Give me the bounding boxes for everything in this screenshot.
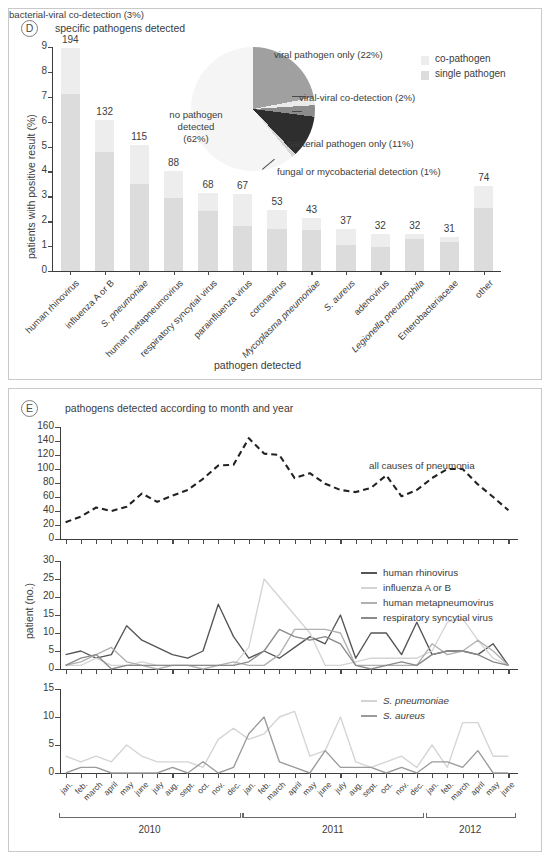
bar-segment-single-pathogen <box>233 226 252 271</box>
panel-d-y-tick-label: 3 <box>25 189 47 200</box>
year-label: 2010 <box>120 824 180 835</box>
bar-count-label: 43 <box>291 204 331 215</box>
panel-d-x-tick <box>139 271 140 275</box>
panel-d-y-tick-label: 1 <box>25 239 47 250</box>
figure-root: D specific pathogens detected patients w… <box>0 0 550 860</box>
panel-d-x-tick <box>243 271 244 275</box>
panel-d-y-tick-label: 6 <box>25 115 47 126</box>
panel-d-y-tick-label: 7 <box>25 90 47 101</box>
pie-callout-bacterial-viral: bacterial-viral co-detection (3%) <box>9 9 144 20</box>
series-legend-label: S. aureus <box>383 710 425 721</box>
leader-line-bacterial-viral <box>292 111 302 112</box>
bar-segment-single-pathogen <box>198 211 217 271</box>
series-legend-swatch <box>361 700 377 702</box>
legend-label-single-pathogen: single pathogen <box>435 68 506 79</box>
year-bracket-line <box>59 817 240 818</box>
panel-d-x-tick <box>346 271 347 275</box>
bar-segment-co-pathogen <box>61 48 80 94</box>
bar-segment-co-pathogen <box>130 145 149 184</box>
panel-d-y-tick-label: 9 <box>25 40 47 51</box>
panel-d-y-tick-label: 5 <box>25 140 47 151</box>
bar-segment-single-pathogen <box>95 152 114 271</box>
bar-segment-single-pathogen <box>302 230 321 271</box>
panel-d-y-tick-label: 2 <box>25 214 47 225</box>
panel-d-badge: D <box>21 20 38 37</box>
panel-d-y-tick-label: 4 <box>25 164 47 175</box>
panel-d-y-tick-label: 8 <box>25 65 47 76</box>
year-bracket-cap <box>242 813 243 818</box>
panel-d-caption: specific pathogens detected <box>55 22 185 34</box>
panel-d-x-tick <box>174 271 175 275</box>
bar-segment-single-pathogen <box>336 245 355 271</box>
panel-d-x-tick <box>484 271 485 275</box>
year-bracket-cap <box>423 813 424 818</box>
panel-d-x-tick <box>277 271 278 275</box>
bar-segment-co-pathogen <box>198 193 217 211</box>
panel-d-y-tick-label: 0 <box>25 264 47 275</box>
bar-count-label: 31 <box>429 223 469 234</box>
bar-segment-co-pathogen <box>267 210 286 229</box>
bar-segment-co-pathogen <box>336 229 355 246</box>
panel-d: D specific pathogens detected patients w… <box>8 8 542 380</box>
panel-d-x-tick <box>70 271 71 275</box>
bar-count-label: 132 <box>85 106 125 117</box>
panel-d-x-tick <box>208 271 209 275</box>
panel-d-x-tick <box>105 271 106 275</box>
bar-segment-co-pathogen <box>233 194 252 226</box>
pie-callout-viral-only: viral pathogen only (22%) <box>274 49 383 60</box>
series-line <box>66 717 509 773</box>
bar-segment-single-pathogen <box>267 229 286 271</box>
year-label: 2011 <box>303 824 363 835</box>
bar-segment-co-pathogen <box>405 234 424 239</box>
panel-d-x-tick <box>415 271 416 275</box>
panel-d-y-axis <box>52 47 53 272</box>
leader-line-viral-viral <box>292 96 306 97</box>
pie-callout-bacterial-only: bacterial pathogen only (11%) <box>287 138 414 149</box>
legend-label-co-pathogen: co-pathogen <box>435 53 491 64</box>
panel-d-x-axis-title: pathogen detected <box>214 359 301 371</box>
bar-segment-co-pathogen <box>164 171 183 198</box>
bar-segment-single-pathogen <box>130 184 149 271</box>
panel-d-x-tick <box>311 271 312 275</box>
bar-segment-single-pathogen <box>405 239 424 271</box>
bar-segment-co-pathogen <box>302 218 321 230</box>
bar-count-label: 74 <box>464 172 504 183</box>
panel-e: E pathogens detected according to month … <box>8 388 542 852</box>
bar-segment-single-pathogen <box>164 198 183 271</box>
pie-center-label: no pathogen detected (62%) <box>159 109 233 145</box>
legend-swatch-single-pathogen <box>421 71 429 80</box>
bar-segment-co-pathogen <box>474 186 493 208</box>
bar-segment-co-pathogen <box>440 237 459 241</box>
year-bracket-cap <box>426 813 427 818</box>
bar-segment-co-pathogen <box>371 234 390 247</box>
year-bracket-line <box>242 817 423 818</box>
panel-d-y-axis-title: patients with positive result (%) <box>25 114 37 259</box>
year-bracket-cap <box>240 813 241 818</box>
bar-count-label: 194 <box>50 34 90 45</box>
pie-center-line-3: (62%) <box>159 133 233 145</box>
bar-count-label: 67 <box>223 180 263 191</box>
year-bracket-cap <box>515 813 516 818</box>
bar-segment-single-pathogen <box>371 247 390 271</box>
bar-segment-single-pathogen <box>474 208 493 271</box>
series-line <box>66 711 509 767</box>
year-bracket-line <box>426 817 515 818</box>
year-bracket-cap <box>59 813 60 818</box>
bar-count-label: 88 <box>154 157 194 168</box>
pie-callout-fungal: fungal or mycobacterial detection (1%) <box>277 166 441 177</box>
pie-center-line-2: detected <box>159 121 233 133</box>
panel-d-x-tick <box>380 271 381 275</box>
bar-segment-single-pathogen <box>440 242 459 271</box>
bar-segment-single-pathogen <box>61 94 80 271</box>
series-legend-label: S. pneumoniae <box>383 695 449 706</box>
bar-count-label: 115 <box>119 131 159 142</box>
year-label: 2012 <box>440 824 500 835</box>
subplot-bacteria: 051015S. pneumoniaeS. aureus <box>9 389 543 569</box>
pie-callout-viral-viral: viral-viral co-detection (2%) <box>299 92 415 103</box>
bar-segment-co-pathogen <box>95 120 114 152</box>
legend-swatch-co-pathogen <box>421 56 429 65</box>
series-legend-swatch <box>361 715 377 717</box>
panel-d-x-tick <box>449 271 450 275</box>
pie-center-line-1: no pathogen <box>159 109 233 121</box>
